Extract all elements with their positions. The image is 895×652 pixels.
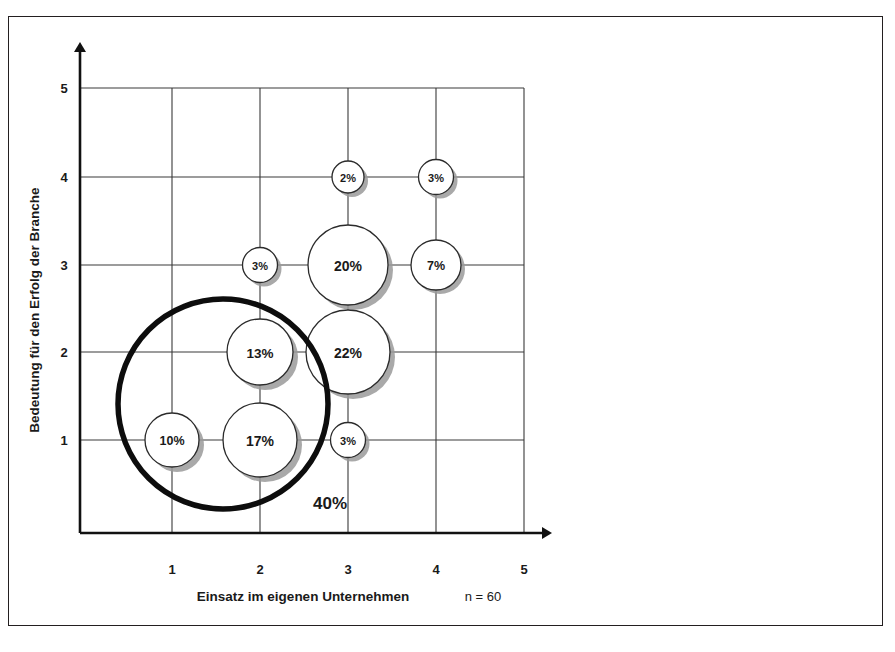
x-axis-title: Einsatz im eigenen Unternehmen	[197, 589, 409, 604]
bubble-label-1-1: 10%	[159, 434, 184, 448]
bubble-label-4-3: 7%	[427, 259, 445, 273]
x-tick-labels: 1 2 3 4 5	[168, 562, 527, 577]
x-tick-5: 5	[520, 562, 527, 577]
bubble-series: 2% 3% 3% 20%	[145, 160, 465, 483]
bubble-label-2-3: 3%	[252, 260, 268, 272]
cluster-total-label: 40%	[313, 494, 347, 513]
bubble-label-4-4: 3%	[428, 172, 444, 184]
bubble-1-1[interactable]: 10%	[145, 413, 204, 472]
bubble-2-1[interactable]: 17%	[223, 403, 302, 482]
bubble-3-4[interactable]: 2%	[332, 161, 368, 197]
x-tick-2: 2	[256, 562, 263, 577]
bubble-label-2-2: 13%	[246, 346, 273, 361]
bubble-3-1[interactable]: 3%	[331, 423, 370, 462]
bubble-label-3-1: 3%	[340, 435, 356, 447]
x-tick-4: 4	[432, 562, 440, 577]
cluster-highlight-ring	[118, 299, 328, 509]
bubble-chart: 5 4 3 2 1 1 2 3 4 5 Einsatz im eigenen U…	[0, 0, 895, 652]
bubble-3-2[interactable]: 22%	[306, 310, 395, 399]
bubble-2-3[interactable]: 3%	[243, 248, 282, 287]
bubble-label-2-1: 17%	[246, 433, 275, 449]
y-tick-3: 3	[60, 258, 67, 273]
y-axis-title: Bedeutung für den Erfolg der Branche	[27, 187, 42, 433]
x-tick-3: 3	[344, 562, 351, 577]
sample-size-note: n = 60	[465, 589, 502, 604]
bubble-label-3-4: 2%	[340, 172, 356, 184]
bubble-2-2[interactable]: 13%	[227, 319, 298, 390]
y-tick-1: 1	[60, 433, 67, 448]
y-tick-2: 2	[60, 345, 67, 360]
bubble-4-4[interactable]: 3%	[419, 160, 458, 199]
x-tick-1: 1	[168, 562, 175, 577]
y-tick-labels: 5 4 3 2 1	[60, 81, 68, 448]
bubble-3-3[interactable]: 20%	[308, 225, 393, 310]
bubble-label-3-2: 22%	[334, 345, 363, 361]
y-tick-4: 4	[60, 170, 68, 185]
figure-page: 5 4 3 2 1 1 2 3 4 5 Einsatz im eigenen U…	[0, 0, 895, 652]
bubble-4-3[interactable]: 7%	[411, 240, 465, 294]
y-tick-5: 5	[60, 81, 67, 96]
bubble-label-3-3: 20%	[334, 258, 363, 274]
